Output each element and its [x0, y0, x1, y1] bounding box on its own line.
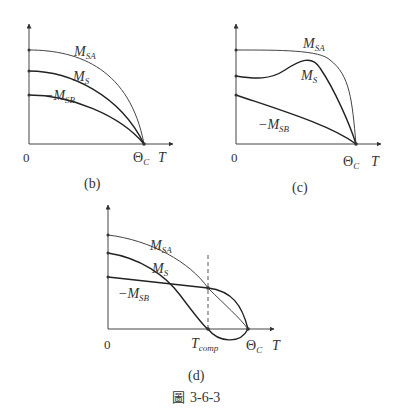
x-axis-label: T	[158, 150, 167, 165]
curie-label: ΘC	[246, 338, 263, 355]
point	[354, 142, 358, 146]
point	[206, 327, 210, 331]
origin-label: 0	[104, 337, 111, 352]
label-msa: MSA	[149, 238, 172, 255]
panel-label: (b)	[84, 176, 101, 192]
caption-prefix: 圖	[172, 390, 185, 405]
curie-label: ΘC	[133, 150, 150, 167]
point	[142, 142, 146, 146]
x-axis-label: T	[272, 338, 281, 353]
curie-label: ΘC	[343, 154, 360, 171]
point	[235, 94, 238, 97]
label-ms: MS	[151, 261, 169, 278]
label-ms: MS	[72, 69, 90, 86]
origin-label: 0	[231, 150, 238, 165]
panel-c: MSA MS −MSB 0 ΘC T (c)	[231, 24, 381, 196]
point	[107, 234, 110, 237]
point	[107, 276, 110, 279]
panel-d: MSA MS −MSB 0 Tcomp ΘC T (d)	[104, 205, 281, 384]
point	[235, 49, 238, 52]
caption-number: 3-6-3	[190, 390, 220, 405]
panel-label: (c)	[292, 180, 308, 196]
point	[206, 286, 210, 290]
point	[28, 70, 31, 73]
label-ms: MS	[300, 68, 318, 85]
x-axis-label: T	[371, 154, 380, 169]
label-msb: −MSB	[258, 117, 290, 134]
curve-msb	[236, 95, 356, 144]
label-msb: −MSB	[118, 286, 150, 303]
point	[235, 75, 238, 78]
figure-canvas: MSA MS −MSB 0 ΘC T (b) MSA MS −MSB 0 ΘC …	[0, 0, 401, 419]
panel-b: MSA MS −MSB 0 ΘC T (b)	[23, 24, 173, 192]
point	[28, 49, 31, 52]
figure-caption: 圖 3-6-3	[172, 390, 220, 405]
label-msb: −MSB	[44, 88, 76, 105]
panel-label: (d)	[188, 368, 205, 384]
label-msa: MSA	[73, 44, 96, 61]
curve-msb	[108, 277, 248, 329]
point	[107, 252, 110, 255]
tcomp-label: Tcomp	[191, 336, 219, 353]
curve-msa	[108, 235, 248, 329]
label-msa: MSA	[302, 36, 325, 53]
point	[28, 94, 31, 97]
curve-ms	[236, 60, 356, 144]
origin-label: 0	[23, 150, 30, 165]
point	[246, 327, 250, 331]
